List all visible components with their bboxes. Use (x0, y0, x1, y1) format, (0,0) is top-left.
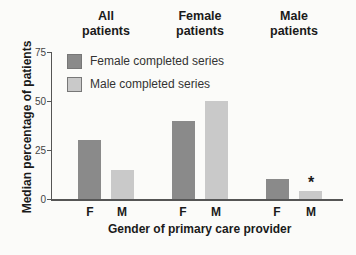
bar-female-patients-female-provider (172, 121, 195, 199)
group-title-line: patients (249, 24, 339, 39)
x-cat-f: F (267, 205, 287, 219)
group-title-line: patients (61, 24, 151, 39)
bar-all-male-provider (111, 170, 134, 199)
bar-all-female-provider (78, 140, 101, 199)
x-cat-f: F (173, 205, 193, 219)
legend-swatch-male (67, 77, 82, 92)
bar-male-patients-male-provider (299, 191, 322, 199)
group-title-line: Male (249, 9, 339, 24)
legend-label-female: Female completed series (90, 54, 224, 68)
x-axis-label: Gender of primary care provider (108, 222, 291, 236)
x-cat-f: F (80, 205, 100, 219)
y-tick-mark (47, 150, 51, 151)
y-tick-50: 50 (24, 96, 46, 107)
x-axis-line (51, 199, 343, 201)
bar-female-patients-male-provider (205, 101, 228, 199)
y-axis-line (51, 52, 52, 200)
x-cat-m: M (301, 205, 321, 219)
group-title-line: Female (155, 9, 245, 24)
legend-swatch-female (67, 54, 82, 69)
group-title-line: patients (155, 24, 245, 39)
y-tick-mark (47, 52, 51, 53)
y-tick-0: 0 (24, 194, 46, 205)
bar-male-patients-female-provider (266, 179, 289, 199)
group-title-all: All patients (61, 9, 151, 39)
y-axis-label: Median percentage of patients (20, 41, 34, 214)
group-title-line: All (61, 9, 151, 24)
significance-asterisk: * (301, 174, 321, 192)
group-title-male: Male patients (249, 9, 339, 39)
x-cat-m: M (206, 205, 226, 219)
y-tick-25: 25 (24, 145, 46, 156)
y-tick-75: 75 (24, 47, 46, 58)
legend-label-male: Male completed series (90, 77, 210, 91)
y-tick-mark (47, 199, 51, 200)
x-cat-m: M (112, 205, 132, 219)
y-tick-mark (47, 101, 51, 102)
group-title-female: Female patients (155, 9, 245, 39)
